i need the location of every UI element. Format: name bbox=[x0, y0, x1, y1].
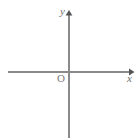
coordinate-axes-figure: y x O bbox=[0, 0, 139, 138]
x-axis-label: x bbox=[127, 73, 132, 84]
y-axis-label: y bbox=[60, 6, 65, 17]
y-axis-arrowhead bbox=[66, 10, 73, 16]
origin-label: O bbox=[57, 73, 65, 84]
axes-drawing bbox=[0, 0, 139, 138]
